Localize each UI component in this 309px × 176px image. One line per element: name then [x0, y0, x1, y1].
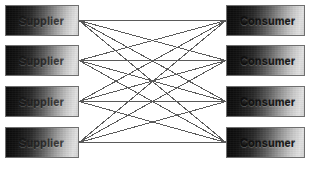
node-consumer-2[interactable]: Consumer — [226, 45, 305, 76]
consumer-label: Consumer — [227, 55, 295, 67]
supplier-label: Supplier — [6, 137, 64, 149]
consumer-label: Consumer — [227, 96, 295, 108]
consumer-label: Consumer — [227, 15, 295, 27]
consumer-label: Consumer — [227, 137, 295, 149]
bipartite-diagram: SupplierSupplierSupplierSupplier Consume… — [0, 0, 309, 176]
supplier-label: Supplier — [6, 55, 64, 67]
node-supplier-3[interactable]: Supplier — [5, 86, 79, 117]
supplier-label: Supplier — [6, 15, 64, 27]
node-consumer-1[interactable]: Consumer — [226, 5, 305, 36]
node-supplier-1[interactable]: Supplier — [5, 5, 79, 36]
node-consumer-3[interactable]: Consumer — [226, 86, 305, 117]
node-consumer-4[interactable]: Consumer — [226, 127, 305, 158]
supplier-label: Supplier — [6, 96, 64, 108]
node-supplier-2[interactable]: Supplier — [5, 45, 79, 76]
node-supplier-4[interactable]: Supplier — [5, 127, 79, 158]
